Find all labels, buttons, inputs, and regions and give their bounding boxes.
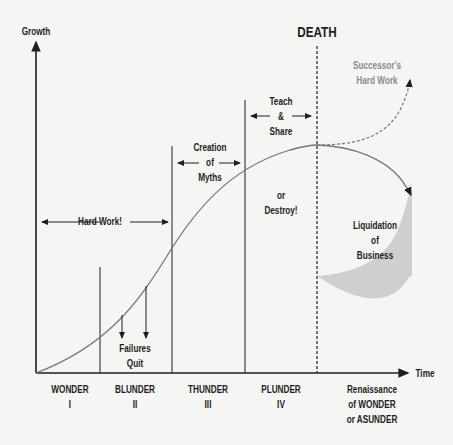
stage-renaissance: Renaissanceof WONDERor ASUNDER [341,382,403,427]
death-label: DEATH [294,24,341,40]
destroy-label: orDestroy! [260,188,302,218]
successor-label: Successor'sHard Work [351,58,402,88]
failures-label: FailuresQuit [116,341,155,371]
stage-wonder: WONDERI [51,382,90,412]
successor-curve [317,80,410,145]
stage-thunder: THUNDERIII [184,382,232,412]
liquidation-curve [317,145,411,195]
x-axis-label: Time [409,366,440,381]
liquidation-label: LiquidationofBusiness [348,218,403,263]
stage-blunder: BLUNDERII [112,382,159,412]
stage-plunder: PLUNDERIV [257,382,305,412]
y-axis-label: Growth [19,24,53,39]
hard-work-label: Hard Work! [75,214,125,229]
teach-share-label: Teach&Share [265,94,298,139]
creation-myths-label: CreationofMyths [191,140,230,185]
growth-curve [36,145,317,373]
